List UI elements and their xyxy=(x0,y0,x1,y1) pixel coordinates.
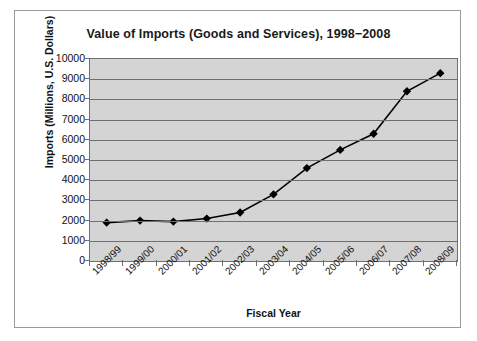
gridline xyxy=(90,79,457,80)
y-tick-label: 6000 xyxy=(41,134,85,144)
y-tick-label: 8000 xyxy=(41,93,85,103)
data-point-marker xyxy=(436,69,444,77)
x-tick-mark xyxy=(189,260,190,266)
y-tick-label: 0 xyxy=(41,255,85,265)
x-tick-mark xyxy=(289,260,290,266)
gridline xyxy=(90,180,457,181)
y-tick-label: 1000 xyxy=(41,235,85,245)
x-tick-mark xyxy=(423,260,424,266)
y-tick-label: 5000 xyxy=(41,154,85,164)
y-axis-ticks: 1000090008000700060005000400030002000100… xyxy=(35,58,85,260)
x-tick-mark xyxy=(256,260,257,266)
plot-area xyxy=(89,58,458,262)
x-axis-title: Fiscal Year xyxy=(89,307,458,319)
chart-title: Value of Imports (Goods and Services), 1… xyxy=(15,27,462,41)
x-tick-mark xyxy=(122,260,123,266)
x-tick-mark xyxy=(456,260,457,266)
y-tick-label: 10000 xyxy=(41,53,85,63)
x-tick-mark xyxy=(89,260,90,266)
x-tick-mark xyxy=(156,260,157,266)
x-tick-mark xyxy=(222,260,223,266)
y-tick-label: 3000 xyxy=(41,194,85,204)
gridline xyxy=(90,241,457,242)
x-tick-mark xyxy=(323,260,324,266)
y-tick-label: 9000 xyxy=(41,73,85,83)
gridline xyxy=(90,140,457,141)
gridline xyxy=(90,99,457,100)
data-point-marker xyxy=(236,208,244,216)
gridline xyxy=(90,221,457,222)
data-point-marker xyxy=(336,146,344,154)
y-tick-label: 7000 xyxy=(41,114,85,124)
gridline xyxy=(90,120,457,121)
chart-container: Value of Imports (Goods and Services), 1… xyxy=(14,10,461,328)
gridline xyxy=(90,200,457,201)
x-tick-mark xyxy=(356,260,357,266)
x-tick-mark xyxy=(389,260,390,266)
data-point-marker xyxy=(102,218,110,226)
y-tick-label: 4000 xyxy=(41,174,85,184)
y-tick-label: 2000 xyxy=(41,215,85,225)
gridline xyxy=(90,160,457,161)
